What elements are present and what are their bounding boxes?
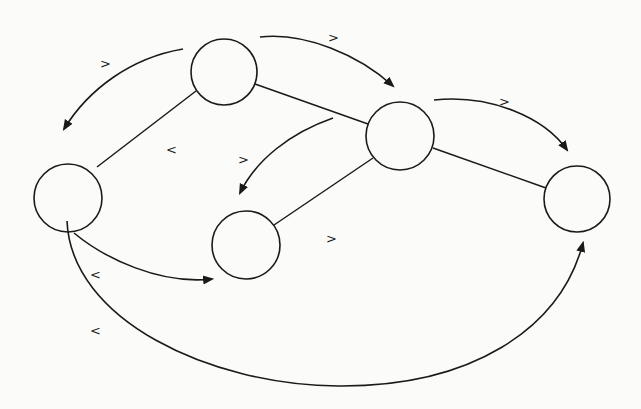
label-arrow-A-to-C: > bbox=[100, 56, 111, 71]
label-arrow-C-to-D: < bbox=[90, 267, 101, 282]
arrow-A-to-C bbox=[64, 49, 183, 129]
arrow-A-to-B bbox=[260, 36, 393, 86]
label-arrow-B-to-E: > bbox=[499, 94, 510, 109]
label-arrow-C-to-E: < bbox=[90, 323, 101, 338]
label-edge-A-C: < bbox=[166, 142, 177, 157]
node-D[interactable] bbox=[212, 211, 280, 279]
edge-A-C bbox=[97, 91, 196, 167]
arrow-C-to-E bbox=[67, 221, 583, 386]
node-E[interactable] bbox=[544, 166, 610, 232]
label-edge-B-D: > bbox=[326, 231, 337, 246]
edge-B-D bbox=[274, 158, 373, 225]
edge-B-E bbox=[433, 148, 546, 188]
arrow-B-to-D bbox=[240, 118, 333, 193]
graph-diagram: > > > > < < < > bbox=[0, 0, 641, 409]
node-B[interactable] bbox=[366, 102, 434, 170]
label-arrow-B-to-D: > bbox=[238, 152, 249, 167]
label-arrow-A-to-B: > bbox=[328, 30, 339, 45]
node-A[interactable] bbox=[191, 39, 257, 105]
node-C[interactable] bbox=[34, 164, 102, 232]
edge-A-B bbox=[255, 84, 368, 124]
